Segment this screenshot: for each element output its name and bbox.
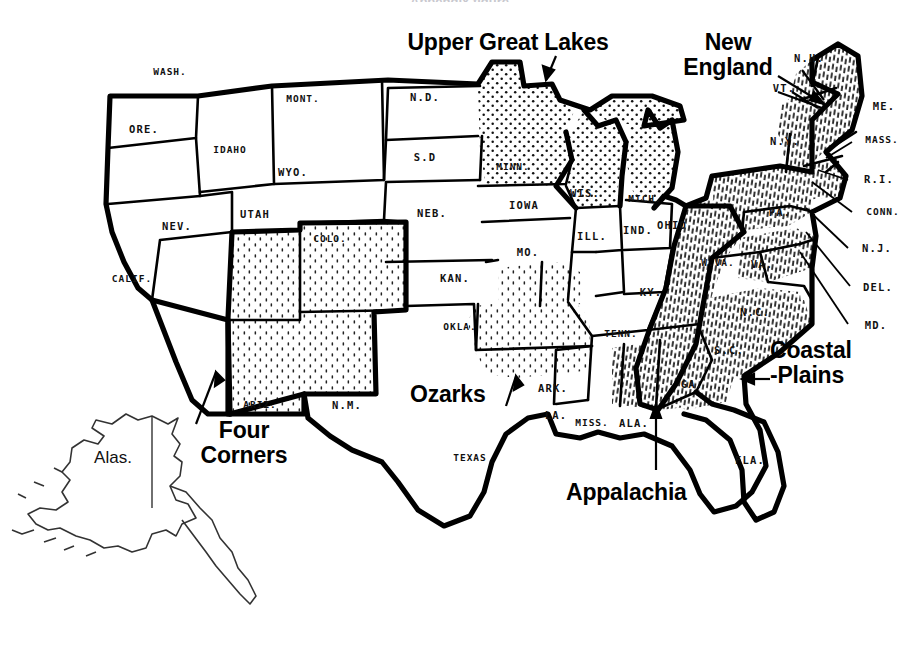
state-label-mont: MONT. [286,94,320,104]
state-label-nev: NEV. [162,221,192,232]
state-label-va: VA. [751,259,774,270]
region-label-upper-great-lakes: Upper Great Lakes [407,30,608,55]
state-label-colo: COLO. [313,234,347,244]
state-label-nm: N.M. [332,400,362,411]
state-label-minn: MINN. [496,162,530,172]
state-label-nh: N.H. [794,53,824,64]
region-label-line: New [683,30,772,55]
region-label-line: Appalachia [566,480,687,505]
map-root: Appendix figure [0,0,919,646]
state-label-mass: MASS. [865,135,899,145]
state-label-ill: ILL. [577,231,607,242]
state-label-fla: FLA. [735,455,765,466]
state-label-me: ME. [873,101,896,112]
region-label-line: Four [201,418,288,443]
state-label-okla: OKLA. [443,322,477,332]
state-label-nd: N.D. [410,92,440,103]
state-label-la: LA. [545,410,568,421]
state-label-ariz: ARIZ. [243,400,277,410]
state-label-iowa: IOWA [509,200,539,211]
state-label-ore: ORE. [129,124,159,135]
state-label-ri: R.I. [864,174,894,185]
state-label-miss: MISS. [575,418,609,428]
region-label-appalachia: Appalachia [566,480,687,505]
region-label-ozarks: Ozarks [410,382,486,407]
state-label-ala: ALA. [619,418,649,429]
state-label-ny: N.Y. [770,136,800,147]
state-label-mich: MICH. [628,194,662,204]
region-label-line: Ozarks [410,382,486,407]
state-label-ky: KY. [640,287,663,298]
state-label-vt: VT. [773,83,796,94]
state-label-mo: MO. [517,247,540,258]
state-label-texas: TEXAS [453,453,487,463]
region-label-line: Corners [201,443,288,468]
alaska-aleutians [12,530,96,556]
state-label-ga: GA. [681,379,704,390]
state-label-neb: NEB. [417,208,447,219]
state-label-idaho: IDAHO [213,145,247,155]
state-label-del: DEL. [863,282,893,293]
alaska-outline [28,414,196,552]
region-label-line: England [683,55,772,80]
state-label-conn: CONN. [866,207,900,217]
region-label-coastal-plains: Coastal-Plains [770,338,852,388]
state-label-calif: CALIF. [112,274,152,284]
state-label-ohio: OHIO [657,220,687,231]
state-label-wyo: WYO. [278,167,308,178]
region-label-four-corners: FourCorners [201,418,288,468]
state-label-alaska: Alas. [94,448,132,468]
state-label-md: MD. [865,320,888,331]
state-label-ind: IND. [623,225,653,236]
state-label-wis: WIS. [570,188,600,199]
state-label-sc: S.C. [714,345,744,356]
fill-coastal-plains-va [738,228,816,282]
fill-four-corners [228,223,405,414]
state-label-pa: PA. [769,207,792,218]
region-label-line: Coastal [770,338,852,363]
state-label-ark: ARK. [538,383,568,394]
state-label-sd: S.D [414,152,437,163]
state-label-nc: N.C. [740,307,770,318]
state-label-wva: W.VA. [701,258,735,268]
alaska-panhandle [170,486,256,604]
region-label-new-england: NewEngland [683,30,772,80]
state-label-nj: N.J. [862,243,892,254]
state-label-utah: UTAH [240,209,270,220]
state-label-kan: KAN. [440,273,470,284]
alaska-islands [18,468,62,498]
state-label-wash: WASH. [153,67,187,77]
state-label-tenn: TENN. [604,329,638,339]
region-label-line: -Plains [770,363,852,388]
region-label-line: Upper Great Lakes [407,30,608,55]
